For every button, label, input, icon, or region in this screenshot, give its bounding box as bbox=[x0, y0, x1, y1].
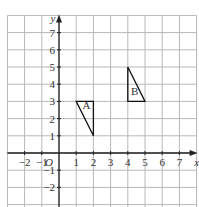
grid-lines bbox=[7, 15, 196, 207]
x-tick-label: 5 bbox=[142, 156, 148, 168]
coordinate-grid: −2−112345677654321−1−2 ABOxy bbox=[0, 0, 199, 207]
x-tick-label: 3 bbox=[108, 156, 114, 168]
y-tick-label: 5 bbox=[50, 61, 56, 73]
x-axis-label: x bbox=[193, 156, 199, 168]
labels: ABOxy bbox=[45, 12, 199, 168]
x-tick-label: −2 bbox=[19, 156, 31, 168]
y-tick-label: 4 bbox=[50, 78, 56, 90]
y-tick-label: 3 bbox=[50, 95, 56, 107]
x-tick-label: 4 bbox=[125, 156, 131, 168]
x-tick-label: 7 bbox=[177, 156, 183, 168]
x-tick-label: 6 bbox=[159, 156, 165, 168]
x-tick-label: 1 bbox=[73, 156, 79, 168]
y-tick-label: 6 bbox=[50, 44, 56, 56]
y-tick-label: 1 bbox=[50, 130, 56, 142]
y-tick-label: 2 bbox=[50, 113, 56, 125]
y-axis-label: y bbox=[50, 12, 56, 24]
triangle-b-label: B bbox=[131, 85, 138, 97]
origin-label: O bbox=[45, 156, 53, 168]
axis-ticks: −2−112345677654321−1−2 bbox=[19, 27, 183, 194]
triangle-a-label: A bbox=[83, 99, 91, 111]
y-tick-label: −2 bbox=[43, 181, 55, 193]
x-tick-label: 2 bbox=[91, 156, 97, 168]
y-tick-label: 7 bbox=[50, 27, 56, 39]
axes bbox=[7, 14, 197, 207]
